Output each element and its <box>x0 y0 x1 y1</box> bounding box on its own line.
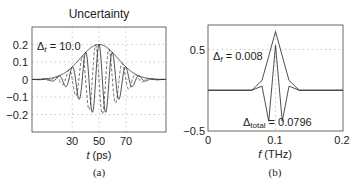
x-tick-label: 50 <box>93 135 105 147</box>
x-tick-label: 30 <box>66 135 78 147</box>
delta-f-annotation: Δf = 0.008 <box>213 50 263 64</box>
y-tick-label: 0 <box>22 74 28 86</box>
y-tick-label: −0.5 <box>183 125 205 137</box>
x-tick-label: 0.2 <box>334 134 349 146</box>
panel-b-chart: 0.5 −0.5 0 0.1 0.2 f (THz) (b) Δf = 0.00… <box>183 25 349 179</box>
x-tick-label: 70 <box>120 135 132 147</box>
panel-a-chart: Uncertainty 0.2 0.1 0 −0.1 −0.2 30 50 70… <box>6 7 166 179</box>
x-tick-label: 0.1 <box>267 134 282 146</box>
panel-a-caption: (a) <box>93 166 106 179</box>
y-tick-label: −0.1 <box>6 91 28 103</box>
y-tick-label: 0.1 <box>13 56 28 68</box>
x-axis-label: t (ps) <box>86 149 111 161</box>
y-tick-label: 0.5 <box>190 44 205 56</box>
delta-total-annotation: Δtotal = 0.0796 <box>243 116 312 130</box>
delta-t-annotation: Δt = 10.0 <box>37 40 81 54</box>
panel-b-curves <box>208 32 343 122</box>
x-tick-label: 0 <box>205 134 211 146</box>
y-tick-label: 0.2 <box>13 39 28 51</box>
y-tick-label: −0.2 <box>6 109 28 121</box>
panel-b-caption: (b) <box>269 166 282 179</box>
figure: Uncertainty 0.2 0.1 0 −0.1 −0.2 30 50 70… <box>0 0 358 188</box>
x-axis-label: f (THz) <box>258 148 292 160</box>
panel-a-title: Uncertainty <box>69 7 130 21</box>
